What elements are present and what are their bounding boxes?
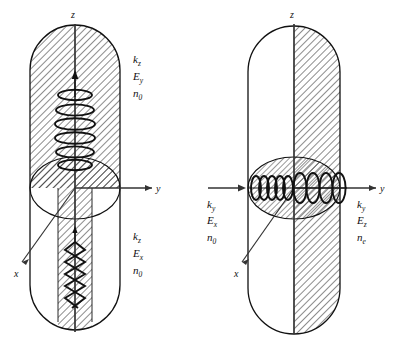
right-y-axis-label: y (379, 183, 385, 194)
right-exit-E-sub: z (363, 220, 367, 229)
right-incident-k-sub: y (211, 204, 216, 213)
left-lower-E-sub: x (139, 253, 144, 262)
right-exit-annotation: ky Ez ne (356, 198, 367, 246)
diagram-svg: z y x kz (0, 0, 409, 355)
left-upper-n-sub: 0 (139, 93, 143, 102)
right-exit-k-sub: y (361, 204, 366, 213)
left-upper-E-sub: y (139, 76, 144, 85)
figure-container: z y x kz (0, 0, 409, 355)
left-z-axis-label: z (70, 9, 75, 20)
left-x-axis-label: x (13, 268, 19, 279)
left-upper-k-sub: z (137, 59, 141, 68)
left-lower-n-sub: 0 (139, 270, 143, 279)
right-incident-n-sub: 0 (213, 237, 217, 246)
right-incident-E-sub: x (213, 220, 218, 229)
left-lower-k-sub: z (137, 236, 141, 245)
right-x-axis-label: x (233, 268, 239, 279)
right-z-axis-label: z (289, 9, 294, 20)
left-y-axis-label: y (155, 183, 161, 194)
